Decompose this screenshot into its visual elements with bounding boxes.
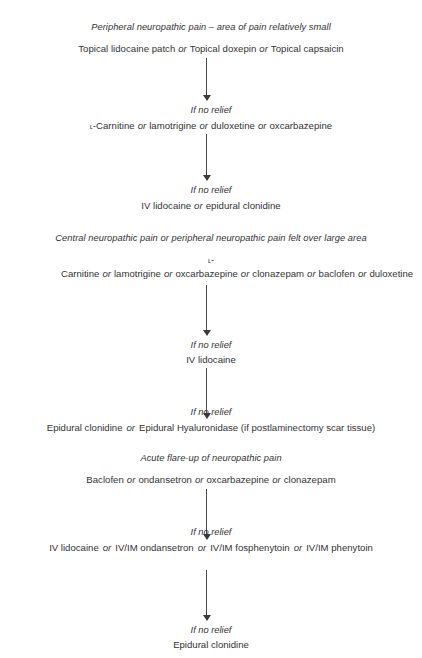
drug-ivim-ondansetron: IV/IM ondansetron bbox=[115, 542, 193, 553]
drug-ivim-fosphenytoin: IV/IM fosphenytoin bbox=[210, 542, 289, 553]
separator-or: or bbox=[99, 542, 116, 553]
drug-iv-lidocaine: IV lidocaine bbox=[186, 354, 236, 365]
drug-baclofen: Baclofen bbox=[86, 474, 124, 485]
treatment-row-s2-tier3: Epidural clonidineorEpidural Hyaluronida… bbox=[4, 421, 418, 435]
separator-or: or bbox=[196, 120, 211, 131]
drug-iv-lidocaine: IV lidocaine bbox=[49, 542, 99, 553]
flow-label-s2-step1: If no relief bbox=[0, 339, 422, 352]
separator-or: or bbox=[192, 474, 207, 485]
drug-epidural-hyaluronidase: Epidural Hyaluronidase (if postlaminecto… bbox=[139, 422, 375, 433]
separator-or: or bbox=[256, 43, 271, 54]
drug-oxcarbazepine: oxcarbazepine bbox=[269, 120, 332, 131]
treatment-row-s2-tier2: IV lidocaine bbox=[0, 353, 422, 366]
separator-or: or bbox=[355, 268, 370, 279]
separator-or: or bbox=[290, 542, 307, 553]
separator-or: or bbox=[194, 542, 211, 553]
drug-lamotrigine: lamotrigine bbox=[149, 120, 196, 131]
drug-clonazepam: clonazepam bbox=[284, 474, 336, 485]
separator-or: or bbox=[161, 268, 176, 279]
flow-arrow-s1-step2 bbox=[201, 134, 212, 182]
flow-label-s3-step2: If no relief bbox=[0, 624, 422, 637]
drug-oxcarbazepine: oxcarbazepine bbox=[175, 268, 237, 279]
drug-iv-lidocaine: IV lidocaine bbox=[141, 200, 191, 211]
treatment-row-s3-tier2: IV lidocaineorIV/IM ondansetronorIV/IM f… bbox=[4, 541, 418, 555]
drug-duloxetine: duloxetine bbox=[211, 120, 255, 131]
treatment-row-s1-tier3: IV lidocaineorepidural clonidine bbox=[0, 199, 422, 212]
drug-l-carnitine: ʟ-Carnitine bbox=[90, 120, 135, 131]
drug-ivim-phenytoin: IV/IM phenytoin bbox=[306, 542, 373, 553]
neuropathic-pain-algorithm-flowchart: Peripheral neuropathic pain – area of pa… bbox=[0, 0, 422, 658]
drug-topical-lidocaine-patch: Topical lidocaine patch bbox=[78, 43, 175, 54]
treatment-row-s1-tier1: Topical lidocaine patchorTopical doxepin… bbox=[0, 42, 422, 55]
treatment-row-s3-tier3: Epidural clonidine bbox=[0, 638, 422, 651]
flow-label-s2-step2: If no relief bbox=[0, 406, 422, 419]
section-heading-central: Central neuropathic pain or peripheral n… bbox=[0, 232, 422, 245]
treatment-row-s1-tier2: ʟ-Carnitineorlamotrigineorduloxetineorox… bbox=[0, 119, 422, 133]
drug-duloxetine: duloxetine bbox=[369, 268, 413, 279]
separator-or: or bbox=[124, 474, 139, 485]
separator-or: or bbox=[269, 474, 284, 485]
separator-or: or bbox=[122, 422, 139, 433]
drug-ondansetron: ondansetron bbox=[138, 474, 192, 485]
section-heading-peripheral: Peripheral neuropathic pain – area of pa… bbox=[0, 21, 422, 34]
drug-topical-capsaicin: Topical capsaicin bbox=[271, 43, 344, 54]
drug-epidural-clonidine: epidural clonidine bbox=[206, 200, 281, 211]
drug-baclofen: baclofen bbox=[319, 268, 355, 279]
flow-label-s1-step1: If no relief bbox=[0, 104, 422, 117]
drug-epidural-clonidine: Epidural clonidine bbox=[47, 422, 123, 433]
drug-oxcarbazepine: oxcarbazepine bbox=[207, 474, 270, 485]
treatment-row-s3-tier1: Baclofenorondansetronoroxcarbazepineorcl… bbox=[0, 473, 422, 486]
flow-arrow-s3-step2 bbox=[201, 570, 212, 622]
separator-or: or bbox=[175, 43, 190, 54]
separator-or: or bbox=[238, 268, 253, 279]
separator-or: or bbox=[99, 268, 114, 279]
separator-or: or bbox=[304, 268, 319, 279]
drug-epidural-clonidine: Epidural clonidine bbox=[173, 639, 249, 650]
drug-lamotrigine: lamotrigine bbox=[114, 268, 161, 279]
flow-arrow-s2-step1 bbox=[201, 285, 212, 337]
separator-or: or bbox=[255, 120, 270, 131]
flow-arrow-s1-step1 bbox=[201, 58, 212, 102]
flow-label-s1-step2: If no relief bbox=[0, 184, 422, 197]
drug-topical-doxepin: Topical doxepin bbox=[190, 43, 256, 54]
separator-or: or bbox=[191, 200, 206, 211]
separator-or: or bbox=[135, 120, 150, 131]
treatment-row-s2-tier1: ʟ-Carnitineorlamotrigineoroxcarbazepineo… bbox=[61, 253, 361, 281]
drug-clonazepam: clonazepam bbox=[252, 268, 304, 279]
section-heading-acute-flare: Acute flare-up of neuropathic pain bbox=[0, 452, 422, 465]
flow-label-s3-step1: If no relief bbox=[0, 526, 422, 539]
